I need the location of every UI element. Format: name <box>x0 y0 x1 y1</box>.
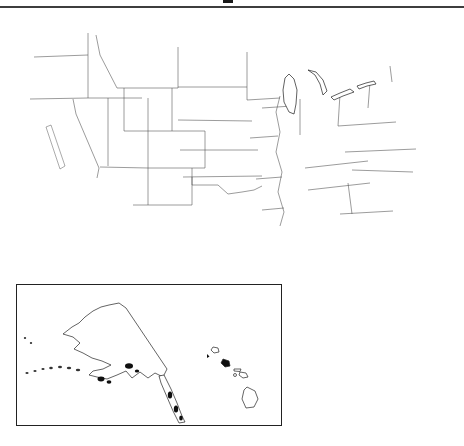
molokai-island <box>234 369 241 372</box>
us-county-map <box>0 0 464 300</box>
lower48-landmass <box>28 27 432 271</box>
hawaii-islands <box>207 347 258 408</box>
figure-page <box>0 0 464 446</box>
inset-map <box>17 285 281 425</box>
alaska-hawaii-inset <box>16 284 282 426</box>
alaska-outline <box>63 303 167 379</box>
niihau-island <box>207 354 210 358</box>
lanai-island <box>234 374 237 377</box>
kauai-island <box>211 347 219 353</box>
oahu-island <box>221 359 230 367</box>
hawaii-big-island <box>242 387 258 408</box>
maui-island <box>239 372 248 378</box>
aleutian-islands <box>24 337 80 374</box>
